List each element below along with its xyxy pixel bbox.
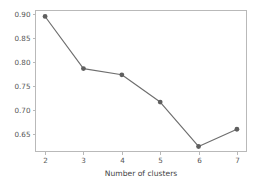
x-axis-tick-labels: 234567 — [43, 156, 240, 165]
plot-background — [36, 11, 247, 152]
y-tick-label: 0.65 — [14, 130, 30, 139]
x-tick-label: 3 — [81, 156, 86, 165]
data-point-marker — [81, 66, 86, 71]
data-point-marker — [158, 100, 163, 105]
x-tick-label: 5 — [158, 156, 163, 165]
y-tick-label: 0.80 — [14, 58, 30, 67]
y-tick-label: 0.90 — [14, 10, 30, 19]
figure-canvas: 0.650.700.750.800.850.90 234567 Number o… — [0, 0, 259, 181]
data-point-marker — [43, 14, 48, 19]
data-point-marker — [119, 72, 124, 77]
x-tick-label: 2 — [43, 156, 48, 165]
y-tick-label: 0.75 — [14, 82, 30, 91]
data-point-marker — [235, 127, 240, 132]
y-tick-label: 0.85 — [14, 34, 30, 43]
data-point-marker — [196, 144, 201, 149]
x-axis-title: Number of clusters — [105, 169, 177, 178]
y-axis-tick-labels: 0.650.700.750.800.850.90 — [14, 10, 30, 139]
x-tick-label: 6 — [197, 156, 202, 165]
x-tick-label: 7 — [235, 156, 240, 165]
x-tick-label: 4 — [120, 156, 125, 165]
y-tick-label: 0.70 — [14, 106, 30, 115]
line-chart: 0.650.700.750.800.850.90 234567 Number o… — [0, 0, 259, 181]
